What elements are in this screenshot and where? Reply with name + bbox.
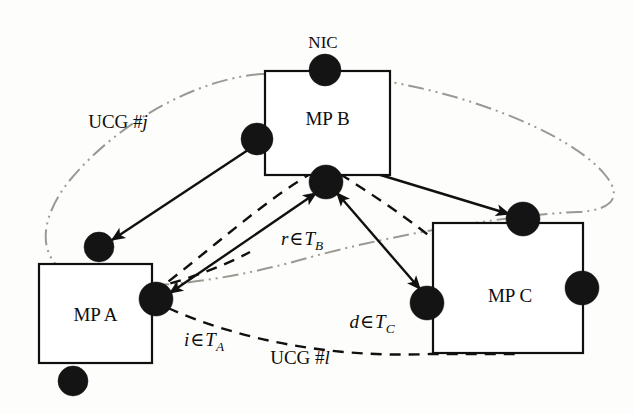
ta-subscript: A	[216, 339, 224, 354]
ucg-l-index: l	[325, 347, 330, 368]
tb-set: T	[304, 228, 315, 249]
ucg-j-index: j	[143, 111, 148, 132]
edge-bleft-atop	[112, 150, 248, 240]
tc-subscript: C	[386, 321, 395, 336]
mp-c-label: MP C	[488, 286, 532, 305]
node-c-top[interactable]	[506, 202, 540, 236]
node-b-bottom[interactable]	[309, 165, 343, 199]
member-of-icon: ∈	[288, 228, 304, 249]
node-c-right[interactable]	[565, 271, 599, 305]
mp-b-label: MP B	[305, 109, 349, 128]
r-in-tb-label: r∈TB	[281, 229, 323, 252]
tb-subscript: B	[315, 238, 323, 253]
ucg-j-label: UCG #j	[88, 112, 148, 131]
edge-ucg-l-a-branch	[152, 252, 250, 288]
node-a-top[interactable]	[84, 232, 114, 262]
node-c-left[interactable]	[410, 286, 444, 320]
tc-set: T	[375, 311, 386, 332]
ta-set: T	[205, 329, 216, 350]
ucg-j-prefix: UCG #	[88, 111, 142, 132]
node-nic-b[interactable]	[309, 54, 341, 86]
node-b-left[interactable]	[241, 123, 273, 155]
member-of-icon: ∈	[189, 329, 205, 350]
nic-label: NIC	[308, 34, 337, 51]
mp-a-label: MP A	[73, 304, 117, 323]
diagram-canvas: NIC MP A MP B MP C UCG #j UCG #l r∈TB i∈…	[0, 0, 634, 414]
d-in-tc-label: d∈TC	[349, 312, 394, 335]
edge-bbottom-cleft	[337, 193, 420, 289]
ucg-l-label: UCG #l	[270, 348, 330, 367]
d-var: d	[349, 311, 359, 332]
member-of-icon: ∈	[359, 311, 375, 332]
i-in-ta-label: i∈TA	[184, 330, 224, 353]
node-a-right[interactable]	[139, 282, 173, 316]
ucg-l-prefix: UCG #	[270, 347, 324, 368]
node-a-bottom[interactable]	[58, 366, 88, 396]
